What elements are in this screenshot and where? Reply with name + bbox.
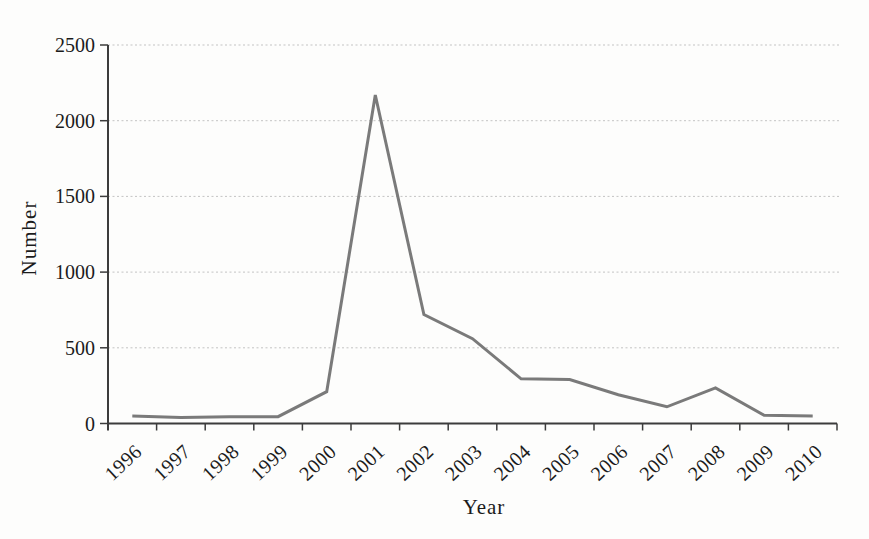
x-tick-label: 2004 [489, 440, 535, 485]
y-axis-title: Number [17, 201, 41, 276]
x-tick-label: 1996 [100, 440, 146, 485]
y-tick-label: 2000 [55, 110, 95, 132]
series-layer [132, 95, 812, 417]
gridlines-layer [108, 45, 840, 348]
x-tick-label: 2001 [343, 440, 389, 485]
y-tick-label: 2500 [55, 34, 95, 56]
data-line-number [132, 95, 812, 417]
scanned-line-chart-figure: 0500100015002000250019961997199819992000… [0, 0, 869, 539]
axes-layer [100, 45, 837, 431]
x-tick-label: 2000 [295, 440, 341, 485]
x-tick-label: 2007 [635, 440, 681, 485]
x-tick-label: 1999 [246, 440, 292, 485]
x-tick-label: 2008 [684, 440, 730, 485]
x-tick-label: 2010 [781, 440, 827, 485]
x-tick-label: 1998 [198, 440, 244, 485]
x-tick-label: 2005 [538, 440, 584, 485]
y-tick-label: 0 [85, 413, 95, 435]
line-chart: 0500100015002000250019961997199819992000… [0, 0, 869, 539]
y-tick-label: 1500 [55, 185, 95, 207]
x-tick-label: 1997 [149, 440, 195, 485]
y-tick-label: 500 [65, 337, 95, 359]
x-tick-label: 2002 [392, 440, 438, 485]
x-tick-label: 2003 [441, 440, 487, 485]
x-axis-title: Year [463, 495, 506, 519]
x-tick-label: 2006 [586, 440, 632, 485]
y-tick-label: 1000 [55, 261, 95, 283]
x-tick-label: 2009 [732, 440, 778, 485]
